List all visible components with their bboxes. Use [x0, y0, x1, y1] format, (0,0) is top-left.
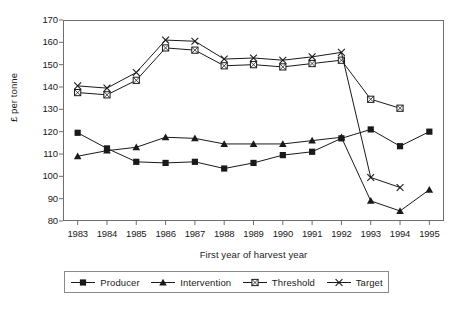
legend-item-threshold[interactable]: Threshold: [242, 277, 315, 288]
legend-label: Threshold: [272, 277, 315, 288]
legend-item-producer[interactable]: Producer: [70, 277, 139, 288]
x-axis-label: First year of harvest year: [63, 249, 444, 260]
legend-label: Intervention: [180, 277, 231, 288]
x-axis-tick-labels: 1983198419851986198719881989199019911992…: [0, 228, 455, 242]
series-producer: [75, 126, 433, 171]
legend-label: Target: [356, 277, 383, 288]
series-intervention: [74, 133, 433, 213]
series-threshold: [75, 45, 404, 112]
series-target: [74, 37, 403, 191]
chart-legend: ProducerInterventionThresholdTarget: [64, 271, 389, 293]
legend-marker-crossed-square-icon: [242, 277, 268, 288]
legend-item-target[interactable]: Target: [326, 277, 383, 288]
legend-marker-cross-x-icon: [326, 277, 352, 288]
figure: £ per tonne 8090100110120130140150160170…: [0, 0, 455, 319]
legend-marker-filled-square-icon: [70, 277, 96, 288]
legend-label: Producer: [100, 277, 139, 288]
x-axis-tick-1995: 1995: [412, 228, 446, 239]
figure-caption: [6, 309, 446, 319]
legend-item-intervention[interactable]: Intervention: [150, 277, 231, 288]
legend-marker-filled-triangle-icon: [150, 277, 176, 288]
